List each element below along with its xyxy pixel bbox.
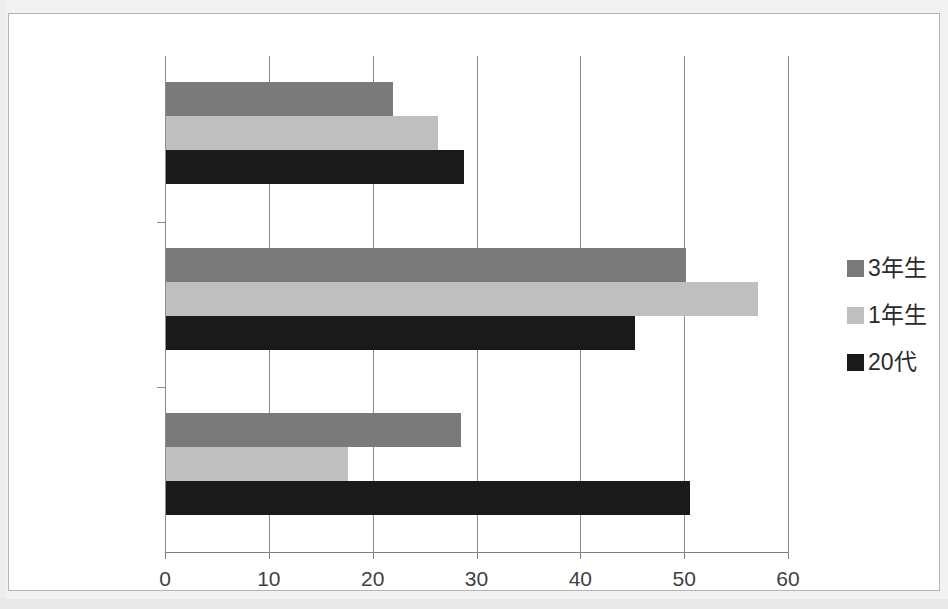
category-tick-1 bbox=[157, 222, 166, 223]
value-tick-label-30: 30 bbox=[465, 567, 488, 591]
legend-label: 20代 bbox=[868, 351, 917, 374]
legend-swatch-icon bbox=[847, 260, 864, 277]
legend-label: 3年生 bbox=[868, 257, 927, 280]
chart-page: 0102030405060 20〜25%15%0% 3年生1年生20代 bbox=[0, 0, 948, 609]
bar bbox=[166, 248, 686, 282]
value-tick-10 bbox=[269, 553, 270, 559]
value-tick-20 bbox=[373, 553, 374, 559]
bar bbox=[166, 447, 348, 481]
scan-edge-bottom bbox=[0, 599, 948, 609]
value-tick-0 bbox=[165, 553, 166, 559]
value-tick-label-10: 10 bbox=[257, 567, 280, 591]
value-tick-label-0: 0 bbox=[159, 567, 171, 591]
bar bbox=[166, 282, 758, 316]
plot-area: 0102030405060 20〜25%15%0% bbox=[165, 56, 788, 553]
value-tick-40 bbox=[580, 553, 581, 559]
value-tick-30 bbox=[477, 553, 478, 559]
legend-swatch-icon bbox=[847, 307, 864, 324]
value-tick-label-50: 50 bbox=[672, 567, 695, 591]
gridline-60 bbox=[788, 56, 789, 553]
scan-edge-left bbox=[0, 0, 6, 609]
value-tick-label-20: 20 bbox=[361, 567, 384, 591]
bar bbox=[166, 413, 461, 447]
bar bbox=[166, 150, 464, 184]
legend-swatch-icon bbox=[847, 354, 864, 371]
legend-label: 1年生 bbox=[868, 304, 927, 327]
value-tick-label-40: 40 bbox=[569, 567, 592, 591]
legend-item: 20代 bbox=[847, 351, 927, 374]
value-tick-label-60: 60 bbox=[776, 567, 799, 591]
bar bbox=[166, 481, 690, 515]
legend: 3年生1年生20代 bbox=[847, 257, 927, 398]
bar bbox=[166, 82, 393, 116]
value-tick-50 bbox=[684, 553, 685, 559]
bar bbox=[166, 116, 438, 150]
legend-item: 3年生 bbox=[847, 257, 927, 280]
category-tick-2 bbox=[157, 387, 166, 388]
legend-item: 1年生 bbox=[847, 304, 927, 327]
bar bbox=[166, 316, 635, 350]
chart-frame: 0102030405060 20〜25%15%0% 3年生1年生20代 bbox=[8, 13, 940, 591]
value-tick-60 bbox=[788, 553, 789, 559]
